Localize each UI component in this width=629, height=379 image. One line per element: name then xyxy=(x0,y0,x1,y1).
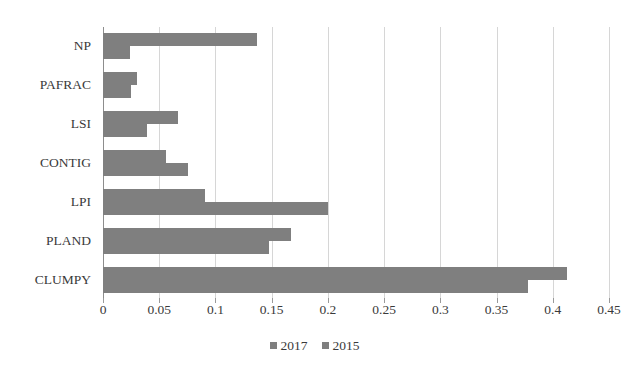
bar-group-contig xyxy=(103,144,609,183)
y-axis-label-pafrac: PAFRAC xyxy=(40,79,91,93)
bar-pafrac-2017 xyxy=(103,72,137,85)
x-axis-label-0.2: 0.2 xyxy=(319,303,336,317)
legend-label-2015: 2015 xyxy=(333,339,360,353)
bar-group-lpi xyxy=(103,182,609,221)
x-axis-label-0.45: 0.45 xyxy=(597,303,621,317)
bar-group-lsi xyxy=(103,105,609,144)
bar-group-np xyxy=(103,27,609,66)
bar-group-clumpy xyxy=(103,260,609,299)
y-axis-label-np: NP xyxy=(74,40,91,54)
bar-lsi-2015 xyxy=(103,124,147,137)
x-axis-label-0.35: 0.35 xyxy=(485,303,509,317)
y-axis-labels: NPPAFRACLSICONTIGLPIPLANDCLUMPY xyxy=(0,27,97,299)
bars xyxy=(103,27,609,299)
bar-clumpy-2015 xyxy=(103,280,528,293)
y-axis-label-lpi: LPI xyxy=(71,195,91,209)
bar-np-2017 xyxy=(103,33,257,46)
bar-pland-2017 xyxy=(103,228,291,241)
bar-group-pafrac xyxy=(103,66,609,105)
x-axis-label-0.1: 0.1 xyxy=(207,303,224,317)
bar-lpi-2017 xyxy=(103,189,205,202)
chart-legend: 20172015 xyxy=(0,339,629,353)
x-axis-label-0.3: 0.3 xyxy=(432,303,449,317)
y-axis-label-clumpy: CLUMPY xyxy=(35,273,91,287)
bar-pland-2015 xyxy=(103,241,269,254)
plot-area xyxy=(103,27,609,299)
legend-label-2017: 2017 xyxy=(281,339,308,353)
legend-swatch-2015 xyxy=(322,342,329,349)
bar-contig-2017 xyxy=(103,150,166,163)
legend-swatch-2017 xyxy=(270,342,277,349)
bar-contig-2015 xyxy=(103,163,188,176)
legend-item-2017[interactable]: 2017 xyxy=(270,339,308,353)
bar-np-2015 xyxy=(103,46,130,59)
y-axis-label-pland: PLAND xyxy=(46,234,91,248)
legend-item-2015[interactable]: 2015 xyxy=(322,339,360,353)
y-axis-label-contig: CONTIG xyxy=(40,156,91,170)
x-axis-label-0.4: 0.4 xyxy=(544,303,561,317)
bar-lsi-2017 xyxy=(103,111,178,124)
x-axis-label-0: 0 xyxy=(100,303,107,317)
x-axis-label-0.15: 0.15 xyxy=(260,303,284,317)
x-axis-label-0.05: 0.05 xyxy=(147,303,171,317)
y-axis-label-lsi: LSI xyxy=(71,117,91,131)
bar-group-pland xyxy=(103,221,609,260)
x-axis-ticks: 00.050.10.150.20.250.30.350.40.45 xyxy=(0,303,629,325)
bar-pafrac-2015 xyxy=(103,85,131,98)
bar-clumpy-2017 xyxy=(103,267,567,280)
bar-lpi-2015 xyxy=(103,202,328,215)
x-axis-label-0.25: 0.25 xyxy=(372,303,396,317)
gridline-0.45 xyxy=(609,27,610,299)
bar-chart: NPPAFRACLSICONTIGLPIPLANDCLUMPY 00.050.1… xyxy=(0,0,629,379)
